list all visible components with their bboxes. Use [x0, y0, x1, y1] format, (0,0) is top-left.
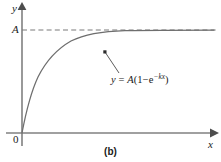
x-axis-arrowhead: [210, 129, 219, 138]
equation-close-paren: ): [165, 74, 169, 85]
annotation-anchor-marker: [103, 50, 106, 53]
figure-panel: y x A 0 y = A(1−e−kx) (b): [0, 0, 221, 162]
y-axis-arrowhead: [18, 2, 27, 10]
origin-label: 0: [13, 134, 19, 145]
y-axis-label: y: [12, 3, 17, 14]
equation-exponent: −kx: [154, 73, 166, 81]
annotation-leader-line: [105, 52, 119, 73]
figure-caption: (b): [0, 146, 221, 157]
asymptote-value-label: A: [12, 24, 19, 35]
equation-open-paren: (1−: [134, 74, 149, 85]
curve-equation-label: y = A(1−e−kx): [111, 75, 169, 86]
equation-equals: =: [116, 74, 127, 85]
